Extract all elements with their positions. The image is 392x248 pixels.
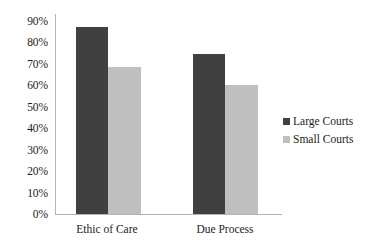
y-axis-tick-label: 10% [2, 187, 48, 199]
legend-item-small-courts: Small Courts [283, 130, 392, 148]
y-axis-tick-label: 30% [2, 144, 48, 156]
y-axis-tick-label: 90% [2, 15, 48, 27]
y-axis-tick-label: 20% [2, 165, 48, 177]
y-axis-tick-label: 70% [2, 58, 48, 70]
legend-swatch-icon [283, 118, 290, 125]
bar-large-courts-ethic-of-care [76, 27, 108, 214]
legend: Large Courts Small Courts [283, 112, 392, 148]
plot-area [56, 14, 282, 214]
x-axis-category-label-ethic-of-care: Ethic of Care [42, 222, 172, 236]
legend-item-label: Small Courts [293, 133, 353, 146]
y-axis: 90% 80% 70% 60% 50% 40% 30% 20% 10% 0% [0, 0, 48, 248]
x-axis-line [55, 214, 282, 215]
bar-small-courts-due-process [225, 85, 258, 214]
legend-swatch-icon [283, 136, 290, 143]
y-axis-tick-label: 0% [2, 208, 48, 220]
legend-item-label: Large Courts [293, 115, 353, 128]
bar-small-courts-ethic-of-care [108, 67, 141, 214]
bar-chart: 90% 80% 70% 60% 50% 40% 30% 20% 10% 0% E… [0, 0, 392, 248]
y-axis-tick-label: 60% [2, 79, 48, 91]
bar-large-courts-due-process [193, 54, 225, 214]
y-axis-tick-label: 40% [2, 122, 48, 134]
y-axis-tick-label: 50% [2, 101, 48, 113]
x-axis-category-label-due-process: Due Process [160, 222, 290, 236]
legend-item-large-courts: Large Courts [283, 112, 392, 130]
y-axis-tick-label: 80% [2, 36, 48, 48]
